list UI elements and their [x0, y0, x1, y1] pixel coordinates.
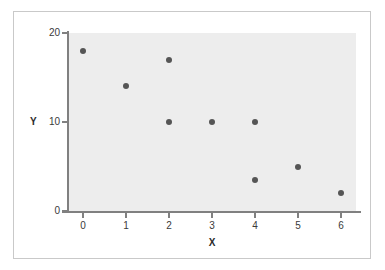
x-axis-tick-label: 0 [73, 221, 93, 231]
x-axis-tick [297, 212, 299, 218]
y-axis-tick-label: 20 [36, 28, 60, 38]
x-axis-tick-label: 3 [202, 221, 222, 231]
data-point [252, 119, 258, 125]
data-point [252, 177, 258, 183]
data-point [295, 164, 301, 170]
y-axis-tick [62, 121, 67, 123]
x-axis-tick [340, 212, 342, 218]
x-axis-tick [125, 212, 127, 218]
y-axis-tick-label: 0 [36, 206, 60, 216]
x-axis-tick [211, 212, 213, 218]
x-axis-tick [168, 212, 170, 218]
y-axis-tick [62, 210, 67, 212]
x-axis-tick-label: 6 [331, 221, 351, 231]
y-axis-tick [62, 32, 67, 34]
scatter-plot-figure: 01020 0123456 Y X [0, 0, 385, 270]
data-point [209, 119, 215, 125]
y-axis-title: Y [30, 117, 37, 127]
data-point [166, 119, 172, 125]
x-axis-tick-label: 4 [245, 221, 265, 231]
x-axis-title: X [200, 238, 224, 248]
y-axis-tick-label: 10 [36, 117, 60, 127]
data-point [166, 57, 172, 63]
x-axis-tick-label: 1 [116, 221, 136, 231]
data-point [80, 48, 86, 54]
x-axis-tick [254, 212, 256, 218]
y-axis-line [67, 31, 69, 212]
x-axis-tick-label: 2 [159, 221, 179, 231]
x-axis-tick [82, 212, 84, 218]
x-axis-tick-label: 5 [288, 221, 308, 231]
